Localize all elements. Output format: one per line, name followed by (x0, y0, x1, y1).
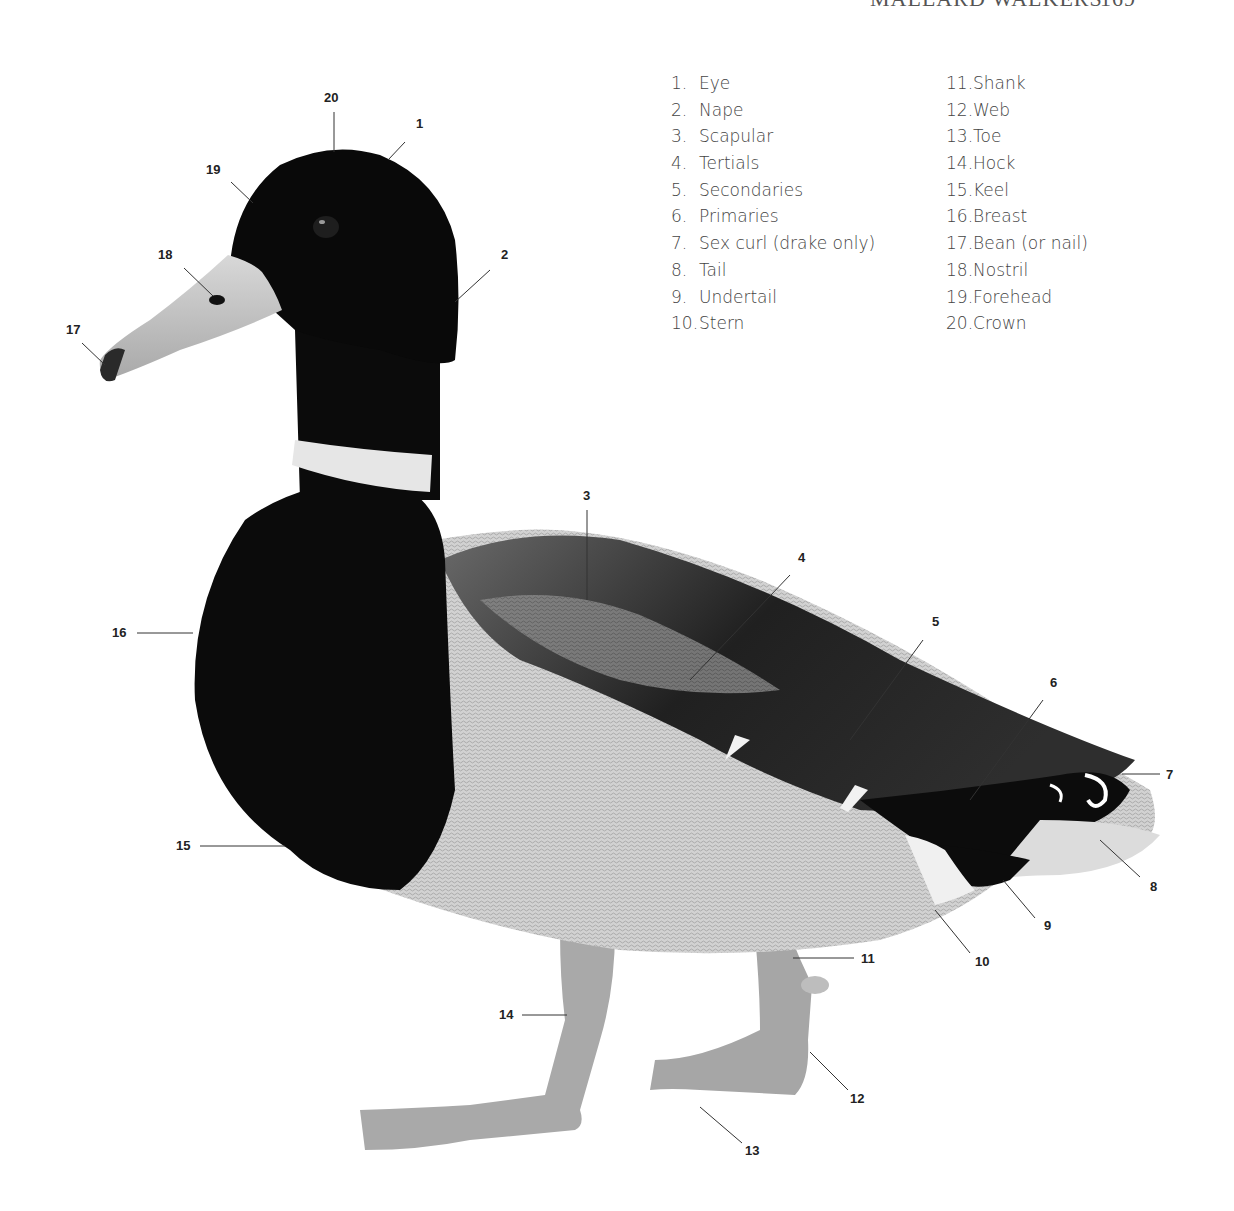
callout-5: 5 (932, 614, 939, 629)
legend-item: 13.Toe (946, 123, 1088, 150)
legend-item: 2.Nape (671, 97, 875, 124)
callout-3: 3 (583, 488, 590, 503)
legend-item: 1.Eye (671, 70, 875, 97)
duck-head-neck-breast (100, 149, 459, 890)
feet (360, 930, 829, 1150)
legend-item: 17.Bean (or nail) (946, 230, 1088, 257)
callout-12: 12 (850, 1091, 864, 1106)
legend-item: 15.Keel (946, 177, 1088, 204)
callout-16: 16 (112, 625, 126, 640)
legend-item: 18.Nostril (946, 257, 1088, 284)
callout-8: 8 (1150, 879, 1157, 894)
legend-item: 11.Shank (946, 70, 1088, 97)
callout-14: 14 (499, 1007, 514, 1022)
callout-1: 1 (416, 116, 423, 131)
legend-item: 5.Secondaries (671, 177, 875, 204)
callout-2: 2 (501, 247, 508, 262)
legend-column-2: 11.Shank 12.Web 13.Toe 14.Hock 15.Keel 1… (946, 70, 1088, 337)
callout-4: 4 (798, 550, 806, 565)
legend-item: 6.Primaries (671, 203, 875, 230)
callout-17: 17 (66, 322, 80, 337)
legend-item: 12.Web (946, 97, 1088, 124)
eye-shape (313, 216, 339, 238)
callout-7: 7 (1166, 767, 1173, 782)
legend-item: 3.Scapular (671, 123, 875, 150)
legend-item: 10.Stern (671, 310, 875, 337)
legend-item: 14.Hock (946, 150, 1088, 177)
callout-6: 6 (1050, 675, 1057, 690)
legend-item: 9.Undertail (671, 284, 875, 311)
callout-19: 19 (206, 162, 220, 177)
legend-column-1: 1.Eye 2.Nape 3.Scapular 4.Tertials 5.Sec… (671, 70, 875, 337)
legend-item: 16.Breast (946, 203, 1088, 230)
legend-item: 19.Forehead (946, 284, 1088, 311)
callout-13: 13 (745, 1143, 759, 1158)
callout-20: 20 (324, 90, 338, 105)
legend-item: 20.Crown (946, 310, 1088, 337)
legend-item: 4.Tertials (671, 150, 875, 177)
callout-18: 18 (158, 247, 172, 262)
callout-15: 15 (176, 838, 190, 853)
callout-10: 10 (975, 954, 989, 969)
legend-item: 7.Sex curl (drake only) (671, 230, 875, 257)
callout-11: 11 (861, 951, 875, 966)
callout-9: 9 (1044, 918, 1051, 933)
legend-item: 8.Tail (671, 257, 875, 284)
